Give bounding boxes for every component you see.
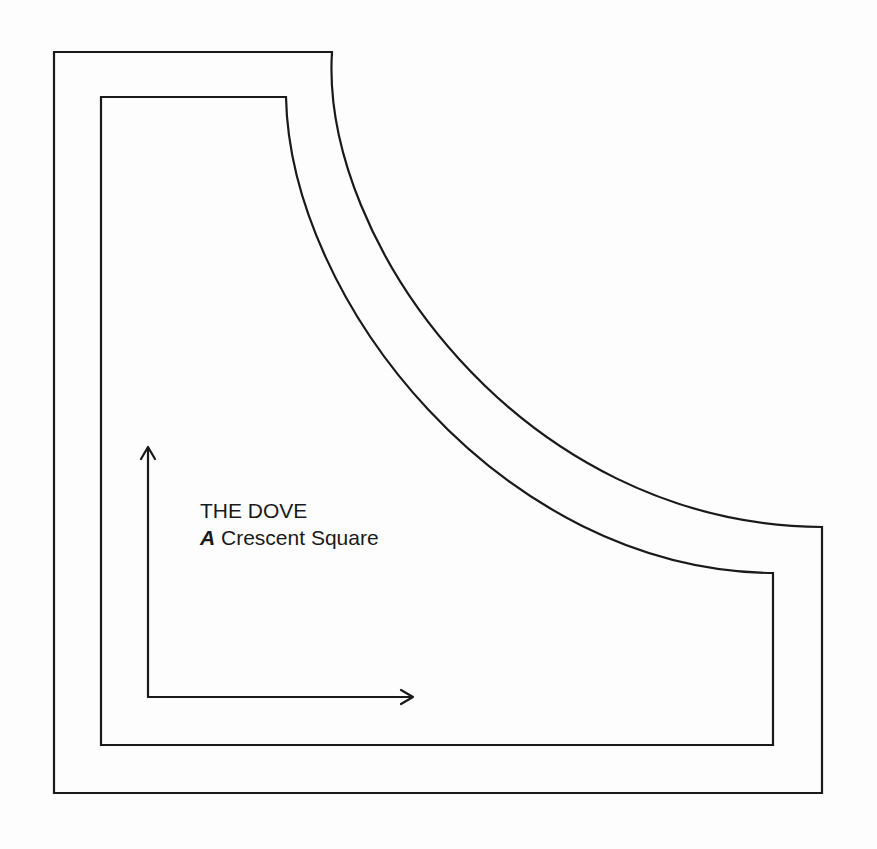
piece-letter: A: [200, 526, 215, 549]
grain-line-arrows: [141, 447, 413, 704]
vertical-grain-arrow-icon: [141, 447, 155, 697]
pattern-title: THE DOVE: [200, 498, 307, 524]
horizontal-grain-arrow-icon: [148, 690, 413, 704]
piece-name: Crescent Square: [221, 526, 379, 549]
inner-sewing-outline: [101, 97, 773, 745]
piece-label: A Crescent Square: [200, 525, 379, 551]
quilt-template-diagram: [0, 0, 877, 849]
outer-cutting-outline: [54, 52, 822, 793]
